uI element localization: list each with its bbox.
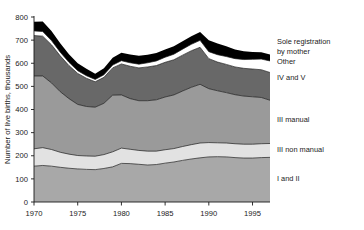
y-tick-label-600: 600 xyxy=(15,59,28,68)
legend-label-by-mother: by mother xyxy=(277,47,310,56)
legend-label-other: Other xyxy=(277,57,296,66)
y-axis-title: Number of live births, thousands xyxy=(3,55,12,164)
x-tick-label-1975: 1975 xyxy=(69,209,86,218)
chart-container: 0100200300400500600700800197019751980198… xyxy=(0,0,364,230)
legend-label-iii-non-manual: III non manual xyxy=(277,145,324,154)
x-tick-label-1995: 1995 xyxy=(244,209,261,218)
y-tick-label-700: 700 xyxy=(15,36,28,45)
y-tick-label-100: 100 xyxy=(15,175,28,184)
stacked-area-chart: 0100200300400500600700800197019751980198… xyxy=(0,0,364,230)
legend-label-iii-manual: III manual xyxy=(277,115,310,124)
y-tick-label-500: 500 xyxy=(15,82,28,91)
plot-area xyxy=(34,21,270,202)
legend-label-sole-registration: Sole registration xyxy=(277,37,330,46)
y-tick-label-800: 800 xyxy=(15,13,28,22)
legend-label-iv-and-v: IV and V xyxy=(277,73,305,82)
legend-label-i-and-ii: I and II xyxy=(277,174,300,183)
x-tick-label-1970: 1970 xyxy=(26,209,43,218)
x-tick-label-1980: 1980 xyxy=(113,209,130,218)
y-tick-label-200: 200 xyxy=(15,151,28,160)
x-tick-label-1985: 1985 xyxy=(157,209,174,218)
y-tick-label-400: 400 xyxy=(15,105,28,114)
y-tick-label-300: 300 xyxy=(15,128,28,137)
y-tick-label-0: 0 xyxy=(24,198,28,207)
legend-layer: Sole registrationby motherOtherIV and VI… xyxy=(277,37,330,183)
x-tick-label-1990: 1990 xyxy=(200,209,217,218)
